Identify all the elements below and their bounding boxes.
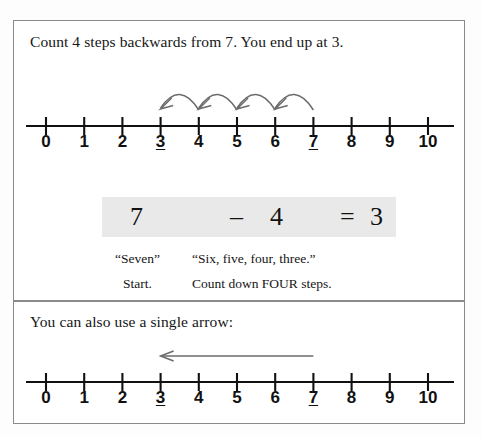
number-line-tick-label: 10	[408, 132, 448, 152]
number-line-tick-label: 2	[102, 132, 142, 152]
equation-minus-sign: –	[230, 197, 243, 237]
number-line-tick-label: 8	[332, 132, 372, 152]
number-line-bottom: 012345678910	[14, 364, 466, 416]
number-line-tick-label: 3	[141, 388, 181, 408]
equation-minuend: 7	[130, 197, 143, 237]
equation-equals-sign: =	[340, 197, 355, 237]
panel-single-arrow: You can also use a single arrow: 0123456…	[13, 301, 465, 424]
caption-quote-start: “Seven”	[115, 251, 160, 267]
number-line-tick-label: 5	[217, 132, 257, 152]
equation-highlight-band: 7 – 4 = 3	[102, 197, 396, 237]
number-line-top: 012345678910	[14, 108, 466, 160]
page-title: Count 4 steps backwards from 7. You end …	[30, 33, 343, 51]
panel-backward-steps: Count 4 steps backwards from 7. You end …	[13, 20, 465, 301]
number-line-tick-label: 8	[332, 388, 372, 408]
worksheet-page: Count 4 steps backwards from 7. You end …	[0, 0, 482, 437]
number-line-tick-label: 7	[293, 132, 333, 152]
number-line-tick-label: 6	[255, 132, 295, 152]
number-line-tick-label: 4	[179, 132, 219, 152]
number-line-tick-label: 1	[64, 132, 104, 152]
number-line-tick-label: 0	[26, 388, 66, 408]
number-line-tick-label: 3	[141, 132, 181, 152]
number-line-tick-label: 0	[26, 132, 66, 152]
number-line-tick-label: 2	[102, 388, 142, 408]
number-line-tick-label: 10	[408, 388, 448, 408]
caption-note-start: Start.	[123, 276, 152, 292]
equation-subtrahend: 4	[270, 197, 283, 237]
number-line-tick-label: 4	[179, 388, 219, 408]
number-line-tick-label: 9	[370, 132, 410, 152]
number-line-tick-label: 9	[370, 388, 410, 408]
equation-result: 3	[370, 197, 383, 237]
number-line-tick-label: 5	[217, 388, 257, 408]
number-line-tick-label: 1	[64, 388, 104, 408]
section-title-single-arrow: You can also use a single arrow:	[30, 313, 233, 331]
caption-quote-countdown: “Six, five, four, three.”	[192, 251, 316, 267]
number-line-tick-label: 7	[293, 388, 333, 408]
number-line-tick-label: 6	[255, 388, 295, 408]
caption-note-countdown: Count down FOUR steps.	[192, 276, 332, 292]
